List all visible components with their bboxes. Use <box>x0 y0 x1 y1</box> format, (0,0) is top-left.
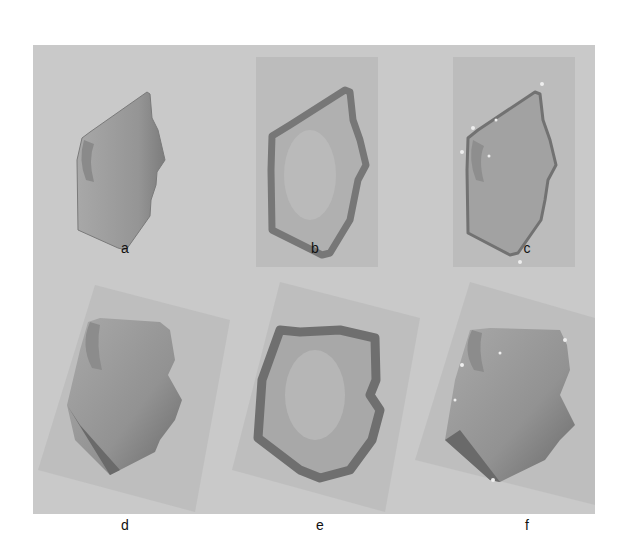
panel-f: f <box>0 0 620 557</box>
face-scan-image-f <box>0 0 620 557</box>
panel-label-f: f <box>517 517 537 533</box>
